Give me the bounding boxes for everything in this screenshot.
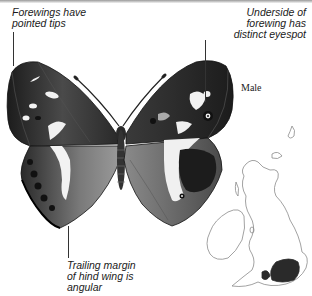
butterfly-illustration [0, 0, 312, 296]
right-forewing [126, 61, 233, 144]
leader-line-forewing-tips [13, 32, 14, 66]
right-hindwing [124, 138, 222, 226]
map-shetland [288, 126, 295, 138]
sex-label: Male [241, 82, 262, 93]
map-ireland [207, 210, 245, 260]
map-distribution-fill [271, 259, 300, 282]
callout-hindwing-margin: Trailing margin of hind wing is angular [67, 260, 136, 293]
callout-underside-eyespot: Underside of forewing has distinct eyesp… [204, 7, 306, 40]
leader-line-hindwing-margin [68, 226, 69, 258]
distribution-map [207, 126, 307, 287]
callout-forewing-tips: Forewings have pointed tips [12, 7, 86, 29]
left-hindwing [21, 146, 120, 228]
leader-line-underside-eyespot [205, 40, 206, 102]
